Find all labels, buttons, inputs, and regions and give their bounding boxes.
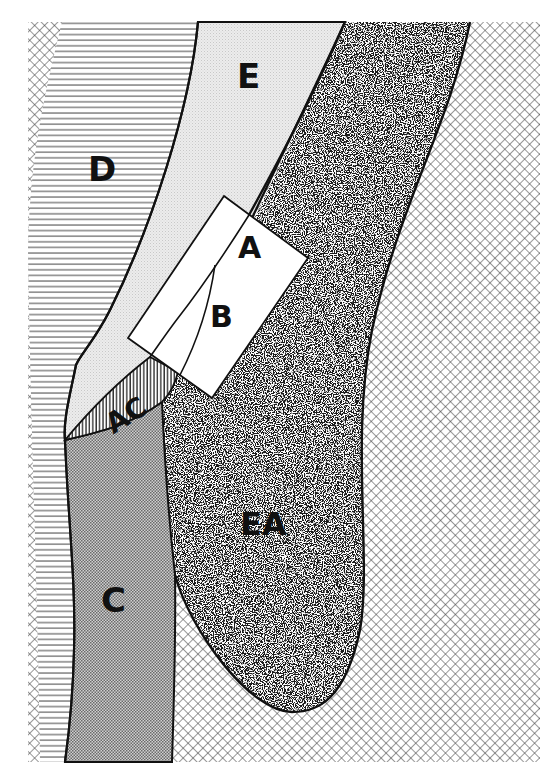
label-e: E xyxy=(237,56,260,96)
label-a: A xyxy=(238,230,262,265)
label-b: B xyxy=(210,299,233,334)
label-ea: EA xyxy=(240,505,287,543)
anatomical-diagram: D E A B AC EA C xyxy=(0,0,552,771)
label-c: C xyxy=(101,580,126,620)
label-d: D xyxy=(88,149,116,189)
